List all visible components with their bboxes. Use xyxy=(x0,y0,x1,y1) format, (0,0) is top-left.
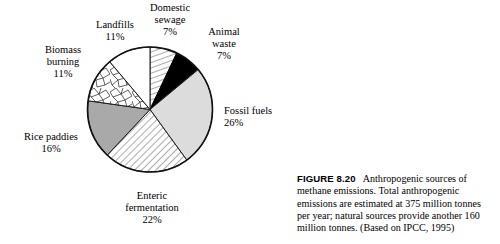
slice-label-fossil-fuels: Fossil fuels 26% xyxy=(224,105,294,129)
slice-label-line1: Rice paddies xyxy=(12,131,90,143)
slice-value-rice-paddies: 16% xyxy=(12,143,90,155)
slice-label-line1: Animal xyxy=(194,26,254,38)
slice-label-line1: Fossil fuels xyxy=(224,105,294,117)
slice-label-enteric-fermentation: Enteric fermentation 22% xyxy=(100,190,204,227)
slice-label-line1: Enteric xyxy=(100,190,204,202)
slice-label-animal-waste: Animal waste 7% xyxy=(194,26,254,63)
slice-value-biomass-burning: 11% xyxy=(32,68,94,80)
slice-label-line2: sewage xyxy=(134,14,206,26)
slice-label-line1: Biomass xyxy=(32,44,94,56)
slice-value-fossil-fuels: 26% xyxy=(224,117,294,129)
slice-label-line2: burning xyxy=(32,56,94,68)
figure-container: Domestic sewage 7% Animal waste 7% Fossi… xyxy=(0,0,500,244)
slice-value-animal-waste: 7% xyxy=(194,50,254,62)
slice-label-line1: Landfills xyxy=(86,19,144,31)
caption-spacer xyxy=(356,173,363,184)
slice-label-rice-paddies: Rice paddies 16% xyxy=(12,131,90,155)
slice-label-line2: fermentation xyxy=(100,202,204,214)
pie-chart: Domestic sewage 7% Animal waste 7% Fossi… xyxy=(0,0,280,244)
slice-label-line2: waste xyxy=(194,38,254,50)
slice-label-line1: Domestic xyxy=(134,2,206,14)
slice-label-landfills: Landfills 11% xyxy=(86,19,144,43)
slice-value-enteric-fermentation: 22% xyxy=(100,214,204,226)
slice-label-biomass-burning: Biomass burning 11% xyxy=(32,44,94,81)
figure-caption: FIGURE 8.20 Anthropogenic sources of met… xyxy=(297,173,493,234)
slice-value-landfills: 11% xyxy=(86,31,144,43)
figure-number: FIGURE 8.20 xyxy=(297,173,356,184)
